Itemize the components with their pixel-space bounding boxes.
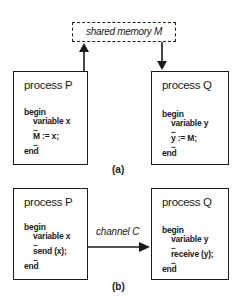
statement: y := M; bbox=[162, 134, 208, 143]
end-keyword: end bbox=[24, 147, 70, 156]
statement: M := x; bbox=[24, 132, 70, 141]
process-p-code: begin variable x .... M := x; .... end bbox=[24, 108, 70, 156]
arrow-p-to-memory bbox=[79, 43, 89, 71]
statement: receive (y); bbox=[162, 250, 214, 259]
process-p-box-b: process P begin variable x .... send (x)… bbox=[13, 188, 88, 280]
process-q-code: begin variable y .... receive (y); .... … bbox=[162, 226, 214, 274]
caption-b: (b) bbox=[112, 281, 125, 292]
end-keyword: end bbox=[162, 149, 208, 158]
caption-a: (a) bbox=[112, 164, 124, 175]
channel-label: channel C bbox=[96, 226, 139, 237]
variable-decl: variable x bbox=[24, 117, 70, 126]
process-q-title: process Q bbox=[162, 196, 212, 208]
arrow-channel-c bbox=[87, 242, 150, 252]
process-q-title: process Q bbox=[162, 79, 212, 91]
arrow-memory-to-q bbox=[157, 42, 167, 70]
process-p-title: process P bbox=[24, 196, 72, 208]
process-p-box-a: process P begin variable x .... M := x; … bbox=[13, 71, 88, 165]
process-q-box-a: process Q begin variable y .... y := M; … bbox=[151, 71, 229, 165]
variable-decl: variable x bbox=[24, 232, 70, 241]
variable-decl: variable y bbox=[162, 119, 208, 128]
process-p-code: begin variable x .... send (x); .... end bbox=[24, 223, 70, 271]
process-q-box-b: process Q begin variable y .... receive … bbox=[151, 188, 229, 280]
process-p-title: process P bbox=[24, 79, 72, 91]
statement: send (x); bbox=[24, 247, 70, 256]
end-keyword: end bbox=[162, 265, 214, 274]
process-q-code: begin variable y .... y := M; .... end bbox=[162, 110, 208, 158]
variable-decl: variable y bbox=[162, 235, 214, 244]
end-keyword: end bbox=[24, 262, 70, 271]
